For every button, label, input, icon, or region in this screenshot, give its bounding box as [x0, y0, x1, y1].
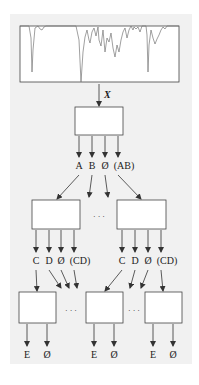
level1-output-a: A [75, 160, 83, 171]
level2-left-classifier-box [32, 200, 80, 229]
level2-left-output-null: Ø [57, 255, 64, 266]
level2-left-output-cd: (CD) [70, 255, 91, 267]
level2-right-output-c: C [119, 255, 126, 266]
level2-left-output-c: C [33, 255, 40, 266]
level3-box2-output-null: Ø [110, 349, 117, 360]
level2-ellipsis: · · · [93, 212, 105, 221]
level2-right-output-cd: (CD) [157, 255, 178, 267]
level3-box2-output-e: E [91, 349, 97, 360]
level1-output-null: Ø [101, 160, 108, 171]
level2-left-output-d: D [45, 255, 52, 266]
input-label-x: X [103, 89, 111, 100]
spectrum-plot [20, 26, 179, 82]
level3-box1-output-e: E [24, 349, 30, 360]
level2-right-output-null: Ø [144, 255, 151, 266]
level3-box1-output-null: Ø [43, 349, 50, 360]
level1-output-b: B [89, 160, 96, 171]
level2-right-output-d: D [131, 255, 138, 266]
level3-ellipsis-2: · · · [128, 306, 140, 315]
level3-classifier-box-1 [19, 292, 56, 323]
level3-classifier-box-3 [145, 292, 182, 323]
level1-output-ab: (AB) [114, 160, 135, 172]
hierarchical-classifier-diagram: X A B Ø (AB) · · · C D Ø (CD) C [0, 0, 199, 385]
level2-right-classifier-box [117, 200, 166, 229]
level3-box3-output-null: Ø [169, 349, 176, 360]
level3-box3-output-e: E [150, 349, 156, 360]
level1-classifier-box [75, 107, 123, 135]
level3-classifier-box-2 [86, 292, 123, 323]
level3-ellipsis-1: · · · [65, 306, 77, 315]
